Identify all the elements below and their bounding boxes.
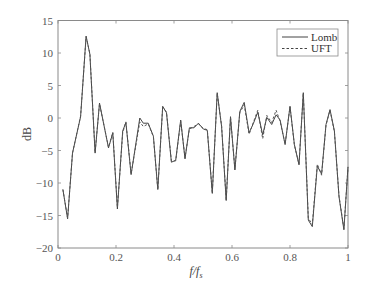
x-tick-label: 0.2	[109, 251, 123, 263]
y-tick-label: 0	[48, 112, 54, 124]
legend-label-uft: UFT	[311, 42, 332, 54]
y-tick-label: 10	[42, 47, 54, 59]
y-tick-label: −10	[36, 177, 54, 189]
y-tick-label: 5	[48, 80, 54, 92]
x-tick-label: 0.6	[225, 251, 239, 263]
x-axis-label-subscript: s	[199, 271, 202, 280]
y-tick-label: −5	[41, 145, 53, 157]
y-tick-label: −15	[36, 210, 54, 222]
x-tick-label: 0.4	[167, 251, 181, 263]
y-tick-label: −20	[36, 242, 54, 254]
y-axis-label: dB	[20, 127, 34, 141]
x-tick-label: 1	[345, 251, 351, 263]
legend-label-lomb: Lomb	[311, 31, 338, 43]
x-axis-label: f/fs	[189, 264, 202, 280]
chart-svg: −20−15−10−5051015 00.20.40.60.81 Lomb UF…	[0, 0, 366, 288]
x-tick-label: 0.8	[283, 251, 297, 263]
legend: Lomb UFT	[277, 29, 338, 56]
y-tick-label: 15	[42, 15, 54, 27]
x-tick-label: 0	[55, 251, 61, 263]
